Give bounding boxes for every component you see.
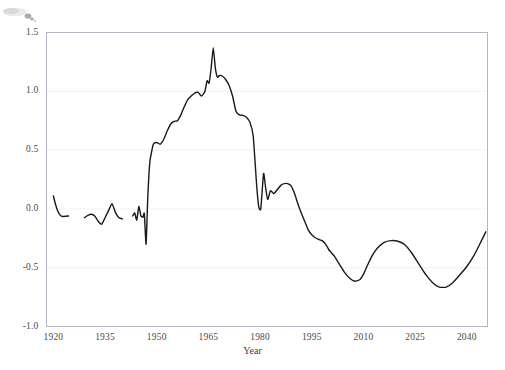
data-line-interwar-observed — [84, 204, 122, 225]
y-tick-label-1.0: 1.0 — [0, 85, 39, 95]
gridline-group — [47, 91, 488, 267]
x-axis-title: Year — [0, 345, 505, 356]
chart-canvas — [0, 0, 505, 370]
data-line-projection — [329, 232, 486, 288]
x-tick-label-2040: 2040 — [442, 332, 492, 342]
x-tick-label-2010: 2010 — [338, 332, 388, 342]
x-tick-label-1935: 1935 — [80, 332, 130, 342]
x-tick-label-1950: 1950 — [132, 332, 182, 342]
y-tick-label-0.0: 0.0 — [0, 203, 39, 213]
x-tick-label-1980: 1980 — [235, 332, 285, 342]
y-tick-label--1.0: -1.0 — [0, 321, 39, 331]
y-tick-label-1.5: 1.5 — [0, 27, 39, 37]
x-tick-label-1965: 1965 — [183, 332, 233, 342]
y-tick-label--0.5: -0.5 — [0, 262, 39, 272]
plot-area-border — [47, 33, 488, 327]
y-tick-label-0.5: 0.5 — [0, 144, 39, 154]
x-tick-label-1920: 1920 — [28, 332, 78, 342]
x-tick-label-1995: 1995 — [287, 332, 337, 342]
x-tick-label-2025: 2025 — [390, 332, 440, 342]
data-line-early-observed — [53, 196, 68, 217]
chart-figure: -1.0-0.50.00.51.01.5 1920193519501965198… — [0, 0, 505, 370]
data-series-group — [53, 48, 485, 288]
data-line-wartime-and-postwar — [133, 48, 329, 250]
